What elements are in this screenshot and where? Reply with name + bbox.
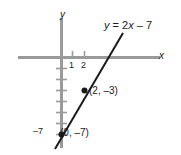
y-tick-label-neg7: –7 <box>33 127 43 136</box>
y-axis-label: y <box>60 10 65 20</box>
point-label-2-neg3: (2, –3) <box>89 86 118 96</box>
x-tick-label-1: 1 <box>69 61 74 70</box>
equation-equals: = <box>110 19 123 31</box>
equation-constant: 7 <box>146 19 152 31</box>
equation-label: y = 2x – 7 <box>104 20 152 31</box>
point-label-0-neg7: (0, –7) <box>60 128 89 138</box>
equation-minus: – <box>134 19 146 31</box>
point-marker-2-neg3 <box>82 88 88 94</box>
x-tick-label-2: 2 <box>81 61 86 70</box>
graph-figure: y x 1 2 –7 y = 2x – 7 (2, –3) (0, –7) <box>0 0 181 155</box>
x-axis-label: x <box>159 51 164 61</box>
coordinate-plane-svg <box>0 0 181 155</box>
